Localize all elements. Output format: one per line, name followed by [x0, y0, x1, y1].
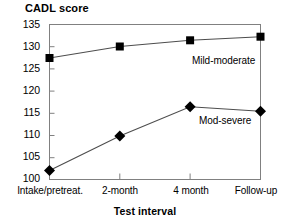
- data-point-marker: [44, 165, 55, 176]
- series-label-mod-severe: Mod-severe: [199, 115, 251, 126]
- data-point-marker: [114, 131, 125, 142]
- data-point-marker: [116, 43, 124, 51]
- x-axis-ticks: [50, 174, 261, 180]
- data-point-marker: [257, 33, 265, 41]
- plot-frame: [50, 25, 261, 180]
- series-mod-severe: [44, 101, 266, 176]
- series-label-mild-moderate: Mild-moderate: [192, 55, 255, 66]
- data-point-marker: [185, 101, 196, 112]
- data-point-marker: [46, 54, 54, 62]
- x-tick-label-4-month: 4 month: [153, 185, 229, 196]
- x-tick-label-follow-up: Follow-up: [222, 185, 290, 196]
- data-point-marker: [255, 106, 266, 117]
- chart-figure: CADL score 135 130 125 120 115 110 105 1…: [0, 0, 290, 223]
- data-point-marker: [186, 36, 194, 44]
- x-tick-label-2-month: 2-month: [82, 185, 158, 196]
- y-axis-ticks: [50, 25, 55, 180]
- x-axis-title: Test interval: [0, 205, 290, 217]
